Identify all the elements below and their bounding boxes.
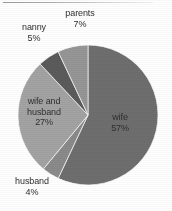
slice-label-wife-percent: 57% bbox=[98, 123, 142, 134]
slice-label-parents-name: parents bbox=[65, 8, 94, 18]
slice-label-wife-and-husband-line1: wife and bbox=[28, 96, 61, 106]
slice-label-nanny-percent: 5% bbox=[7, 33, 61, 44]
slice-label-wife-and-husband-line2: husband bbox=[8, 107, 80, 118]
slice-label-wife-and-husband-percent: 27% bbox=[8, 117, 80, 128]
slice-label-wife-name: wife bbox=[112, 112, 128, 122]
slice-label-husband: husband 4% bbox=[0, 176, 64, 197]
slice-label-nanny-name: nanny bbox=[22, 22, 46, 32]
pie-chart-figure: parents 7% nanny 5% wife and husband 27%… bbox=[0, 0, 172, 211]
slice-label-husband-percent: 4% bbox=[0, 187, 64, 198]
slice-label-wife: wife 57% bbox=[98, 112, 142, 133]
slice-label-wife-and-husband: wife and husband 27% bbox=[8, 96, 80, 128]
slice-label-nanny: nanny 5% bbox=[7, 22, 61, 43]
slice-label-husband-name: husband bbox=[15, 176, 49, 186]
